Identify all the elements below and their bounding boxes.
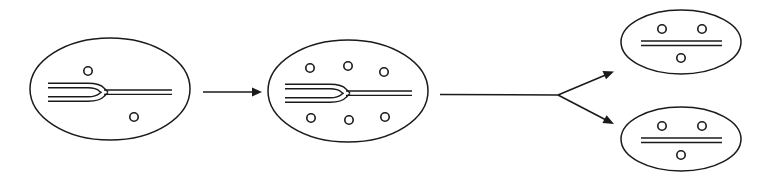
stage-daughter-cell-bottom [621,107,741,171]
stage-parent-cell [30,38,190,140]
dna-fork-upper-inner-strand [48,88,102,93]
cell-membrane-outline [30,38,190,140]
cell-membrane-outline [621,10,741,74]
plasmid-circle [658,122,666,130]
dna-fork-lower-inner-strand [285,93,344,98]
arrow-division-down-shaft [558,95,608,121]
dna-fork-upper-inner-strand [285,89,344,94]
arrow-division-up-shaft [558,74,608,95]
plasmid-circle [677,54,685,62]
arrow-division-stem [440,95,558,96]
stage-daughter-cell-top [621,10,741,74]
diagram-root [0,0,757,181]
plasmid-circle [344,62,352,70]
plasmid-circle [84,67,92,75]
arrow-head [252,88,262,97]
arrow-division [440,71,614,124]
dna-fork-lower-inner-strand [48,92,102,97]
plasmid-circle [698,25,706,33]
plasmid-circle [658,25,666,33]
plasmid-circle [306,64,314,72]
plasmid-circle [130,113,138,121]
arrow-replication [203,88,262,97]
dna-replication-diagram [0,0,757,181]
plasmid-circle [380,68,388,76]
stage-replicating-cell [268,40,428,142]
plasmid-circle [698,122,706,130]
plasmid-circle [381,113,389,121]
plasmid-circle [345,116,353,124]
plasmid-circle [307,114,315,122]
plasmid-circle [677,151,685,159]
cell-membrane-outline [621,107,741,171]
